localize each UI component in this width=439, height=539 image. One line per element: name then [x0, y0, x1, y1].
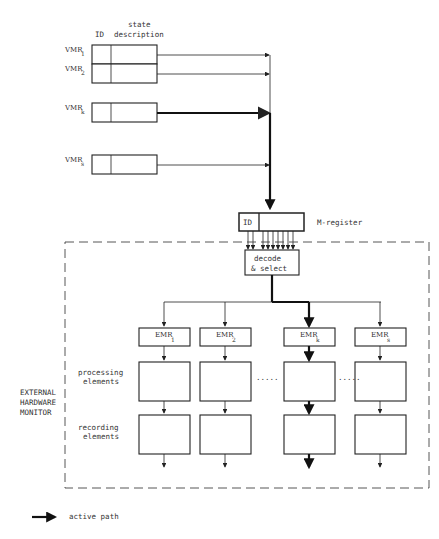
emr-column-3: EMRs: [355, 302, 406, 467]
emr-column-1: EMR2: [200, 302, 251, 467]
emr-column-2: EMRk: [284, 302, 335, 467]
emr-subscript: k: [316, 336, 320, 343]
diagram: ID state description VMR1VMR2VMRkVMRs ID…: [0, 0, 439, 539]
state-column-header-line2: description: [114, 30, 164, 39]
emr-subscript: 2: [232, 336, 236, 343]
decode-label-line1: decode: [254, 254, 282, 263]
recording-element-box: [139, 415, 190, 454]
processing-element-box: [284, 362, 335, 401]
emr-subscript: s: [387, 336, 390, 343]
vmr-1: VMR2: [64, 64, 269, 83]
recording-element-box: [355, 415, 406, 454]
ellipsis-right: .....: [338, 373, 361, 382]
emr-column-0: EMR1: [139, 302, 190, 467]
vmr-subscript: k: [81, 108, 85, 115]
vmr-box: [92, 64, 157, 83]
processing-label-line1: processing: [78, 368, 123, 377]
vmr-subscript: s: [81, 160, 84, 167]
vmr-subscript: 2: [81, 69, 85, 76]
processing-element-box: [355, 362, 406, 401]
vmr-3: VMRs: [64, 155, 269, 174]
id-column-header: ID: [95, 30, 105, 39]
legend-label: active path: [69, 512, 119, 521]
vmr-2: VMRk: [64, 103, 269, 122]
m-register-label: M-register: [317, 218, 363, 227]
vmr-box: [92, 103, 157, 122]
state-column-header-line1: state: [128, 20, 151, 29]
m-register-id: ID: [243, 218, 253, 227]
decode-label-line2: & select: [251, 264, 287, 273]
recording-element-box: [200, 415, 251, 454]
monitor-label-line1: EXTERNAL: [20, 388, 57, 397]
vmr-subscript: 1: [81, 50, 85, 57]
monitor-label-line2: HARDWARE: [20, 398, 57, 407]
processing-label-line2: elements: [83, 377, 119, 386]
recording-element-box: [284, 415, 335, 454]
recording-label-line2: elements: [83, 432, 119, 441]
vmr-box: [92, 45, 157, 64]
bit-lines: [248, 231, 293, 249]
monitor-label-line3: MONITOR: [20, 408, 52, 417]
vmr-0: VMR1: [64, 45, 269, 64]
recording-label-line1: recording: [78, 423, 119, 432]
vmr-box: [92, 155, 157, 174]
emr-subscript: 1: [171, 336, 175, 343]
ellipsis-left: .....: [256, 373, 279, 382]
processing-element-box: [139, 362, 190, 401]
processing-element-box: [200, 362, 251, 401]
